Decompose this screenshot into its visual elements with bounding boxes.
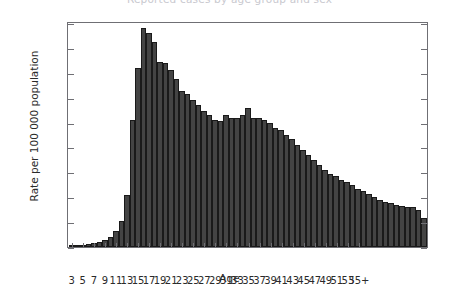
y-tick bbox=[68, 49, 74, 50]
y-tick-right bbox=[421, 173, 427, 174]
x-tick bbox=[304, 243, 305, 247]
x-tick bbox=[94, 243, 95, 247]
bar-series bbox=[68, 23, 427, 247]
y-tick bbox=[68, 124, 74, 125]
y-tick-right bbox=[421, 223, 427, 224]
y-tick bbox=[68, 248, 74, 249]
x-tick bbox=[193, 243, 194, 247]
y-tick-right bbox=[421, 148, 427, 149]
y-tick-right bbox=[421, 248, 427, 249]
x-tick bbox=[204, 243, 205, 247]
y-tick bbox=[68, 74, 74, 75]
x-tick bbox=[293, 243, 294, 247]
y-tick-right bbox=[421, 99, 427, 100]
x-tick bbox=[83, 243, 84, 247]
x-tick bbox=[249, 243, 250, 247]
x-tick bbox=[282, 243, 283, 247]
x-tick bbox=[160, 243, 161, 247]
x-tick bbox=[149, 243, 150, 247]
x-axis-label: Age bbox=[0, 272, 459, 284]
x-tick bbox=[315, 243, 316, 247]
y-tick bbox=[68, 148, 74, 149]
clipped-title: Reported cases by age group and sex bbox=[0, 0, 459, 7]
y-tick bbox=[68, 223, 74, 224]
y-tick-right bbox=[421, 74, 427, 75]
x-tick bbox=[182, 243, 183, 247]
y-tick bbox=[68, 198, 74, 199]
x-tick bbox=[237, 243, 238, 247]
x-tick bbox=[116, 243, 117, 247]
y-tick bbox=[68, 173, 74, 174]
y-tick bbox=[68, 99, 74, 100]
plot-area: 0200400600800100012001400160018003579111… bbox=[67, 22, 428, 248]
x-tick bbox=[226, 243, 227, 247]
x-tick bbox=[260, 243, 261, 247]
y-tick-right bbox=[421, 124, 427, 125]
x-tick bbox=[72, 243, 73, 247]
y-tick-right bbox=[421, 198, 427, 199]
x-tick bbox=[215, 243, 216, 247]
y-axis-label: Rate per 100 000 population bbox=[28, 26, 40, 226]
x-tick bbox=[326, 243, 327, 247]
y-tick-right bbox=[421, 49, 427, 50]
x-tick bbox=[138, 243, 139, 247]
x-tick bbox=[359, 243, 360, 247]
x-tick bbox=[271, 243, 272, 247]
chart-figure: Reported cases by age group and sex Rate… bbox=[0, 0, 459, 297]
x-tick bbox=[105, 243, 106, 247]
y-tick bbox=[68, 24, 74, 25]
y-tick-right bbox=[421, 24, 427, 25]
x-tick bbox=[171, 243, 172, 247]
x-tick bbox=[348, 243, 349, 247]
x-tick bbox=[127, 243, 128, 247]
x-tick bbox=[337, 243, 338, 247]
